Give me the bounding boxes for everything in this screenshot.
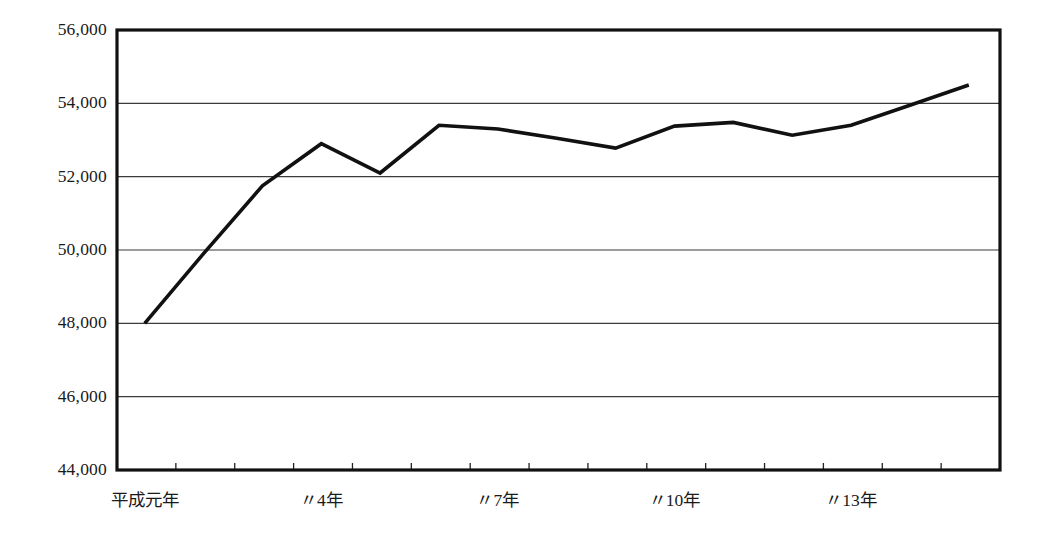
x-axis-tick-label: 〃4年 xyxy=(261,492,381,510)
y-axis-tick-label: 52,000 xyxy=(58,168,107,186)
gridlines xyxy=(117,103,1000,396)
chart-canvas xyxy=(0,0,1039,549)
x-axis-tick-label: 〃7年 xyxy=(438,492,558,510)
y-axis-tick-label: 46,000 xyxy=(58,388,107,406)
y-axis-tick-label: 56,000 xyxy=(58,21,107,39)
y-axis-tick-label: 54,000 xyxy=(58,94,107,112)
y-axis-tick-label: 48,000 xyxy=(58,314,107,332)
x-axis-tick-label: 平成元年 xyxy=(85,492,205,510)
y-axis-tick-label: 50,000 xyxy=(58,241,107,259)
x-axis-tick-label: 〃10年 xyxy=(614,492,734,510)
y-axis-tick-label: 44,000 xyxy=(58,461,107,479)
line-chart: 56,00054,00052,00050,00048,00046,00044,0… xyxy=(0,0,1039,549)
data-series-line xyxy=(145,85,969,323)
x-axis-tick-label: 〃13年 xyxy=(791,492,911,510)
